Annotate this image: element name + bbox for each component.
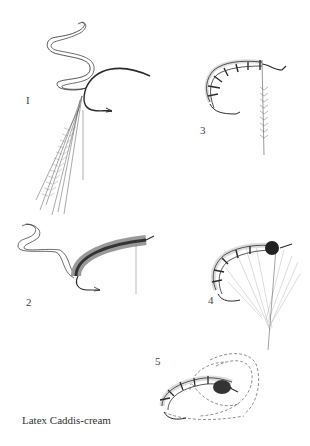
caption: Latex Caddis-cream	[22, 414, 111, 426]
figure-4-label: 4	[208, 294, 214, 306]
figure-3-label: 3	[200, 124, 206, 136]
figure-1-label: I	[26, 94, 30, 106]
figure-5-drawing	[160, 354, 259, 420]
figure-2-drawing	[18, 224, 154, 294]
figure-4-drawing	[212, 241, 300, 350]
figure-5-label: 5	[155, 355, 161, 367]
figure-2-label: 2	[26, 296, 32, 308]
figure-1-drawing	[36, 22, 150, 215]
illustration-canvas	[0, 0, 310, 446]
figure-3-drawing	[207, 60, 286, 155]
